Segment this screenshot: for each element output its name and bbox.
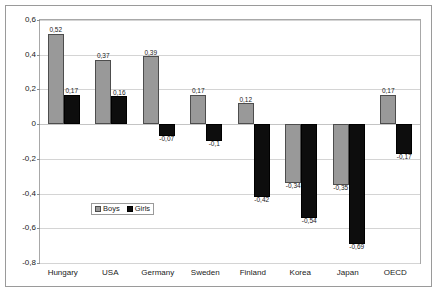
- bar-girls-hungary: 0,17: [64, 95, 80, 125]
- y-axis-tick-label: 0,2: [25, 85, 36, 93]
- bar-girls-oecd: -0,17: [396, 124, 412, 154]
- bar-girls-japan: -0,69: [349, 124, 365, 244]
- category-label-germany: Germany: [141, 269, 174, 277]
- bar-boys-sweden: 0,17: [190, 95, 206, 125]
- legend-label-girls: Girls: [135, 205, 150, 213]
- category-label-oecd: OECD: [384, 269, 407, 277]
- legend-swatch-boys: [95, 206, 101, 212]
- bar-value-label: 0,12: [239, 97, 252, 104]
- bar-value-label: 0,37: [97, 53, 110, 60]
- bar-value-label: 0,52: [49, 27, 62, 34]
- bar-group: 0,17-0,1: [183, 20, 231, 263]
- bar-group: -0,34-0,54: [278, 20, 326, 263]
- bar-value-label: 0,17: [382, 88, 395, 95]
- category-label-korea: Korea: [290, 269, 311, 277]
- bar-girls-korea: -0,54: [301, 124, 317, 218]
- y-axis-tick-label: 0,4: [25, 51, 36, 59]
- bar-group: 0,370,16: [88, 20, 136, 263]
- bar-girls-germany: -0,07: [159, 124, 175, 136]
- category-axis: HungaryUSAGermanySwedenFinlandKoreaJapan…: [39, 265, 421, 285]
- chart-frame: 0,60,40,20-0,2-0,4-0,6-0,8 0,520,170,370…: [5, 5, 432, 287]
- bar-group: -0,35-0,69: [325, 20, 373, 263]
- y-axis-tick-label: -0,8: [22, 259, 36, 267]
- bar-boys-usa: 0,37: [95, 60, 111, 124]
- chart-legend: BoysGirls: [91, 203, 154, 215]
- gridline: [40, 263, 420, 264]
- bar-value-label: 0,39: [144, 50, 157, 57]
- bar-girls-sweden: -0,1: [206, 124, 222, 141]
- y-axis-tick-label: -0,6: [22, 224, 36, 232]
- category-label-usa: USA: [102, 269, 118, 277]
- bar-value-label: 0,17: [192, 88, 205, 95]
- bar-group: 0,520,17: [40, 20, 88, 263]
- bar-boys-finland: 0,12: [238, 103, 254, 124]
- bar-girls-finland: -0,42: [254, 124, 270, 197]
- bar-group: 0,39-0,07: [135, 20, 183, 263]
- y-axis-tick-label: -0,4: [22, 190, 36, 198]
- bar-boys-germany: 0,39: [143, 56, 159, 124]
- category-label-sweden: Sweden: [191, 269, 220, 277]
- bar-value-label: -0,17: [397, 154, 412, 161]
- y-axis-tick-label: -0,2: [22, 155, 36, 163]
- bar-value-label: -0,42: [254, 197, 269, 204]
- category-label-hungary: Hungary: [48, 269, 78, 277]
- bar-boys-japan: -0,35: [333, 124, 349, 185]
- bar-value-label: -0,07: [159, 136, 174, 143]
- bar-boys-oecd: 0,17: [380, 95, 396, 125]
- legend-swatch-girls: [127, 206, 133, 212]
- bar-boys-hungary: 0,52: [48, 34, 64, 124]
- bar-group: 0,17-0,17: [373, 20, 421, 263]
- y-axis-tick-label: 0,6: [25, 16, 36, 24]
- bar-girls-usa: 0,16: [111, 96, 127, 124]
- category-label-japan: Japan: [337, 269, 359, 277]
- bar-value-label: 0,16: [113, 90, 126, 97]
- plot-area: 0,60,40,20-0,2-0,4-0,6-0,8 0,520,170,370…: [39, 19, 421, 264]
- bar-group: 0,12-0,42: [230, 20, 278, 263]
- bar-value-label: -0,54: [302, 218, 317, 225]
- legend-label-boys: Boys: [103, 205, 120, 213]
- bar-value-label: -0,69: [349, 244, 364, 251]
- bar-value-label: -0,35: [333, 185, 348, 192]
- legend-item-boys[interactable]: Boys: [95, 205, 120, 213]
- bar-value-label: -0,34: [286, 183, 301, 190]
- y-axis-tick-mark: [37, 263, 40, 264]
- y-axis-tick-label: 0: [32, 120, 36, 128]
- category-label-finland: Finland: [240, 269, 266, 277]
- bar-boys-korea: -0,34: [285, 124, 301, 183]
- bar-value-label: 0,17: [65, 88, 78, 95]
- legend-item-girls[interactable]: Girls: [127, 205, 150, 213]
- bar-value-label: -0,1: [209, 141, 220, 148]
